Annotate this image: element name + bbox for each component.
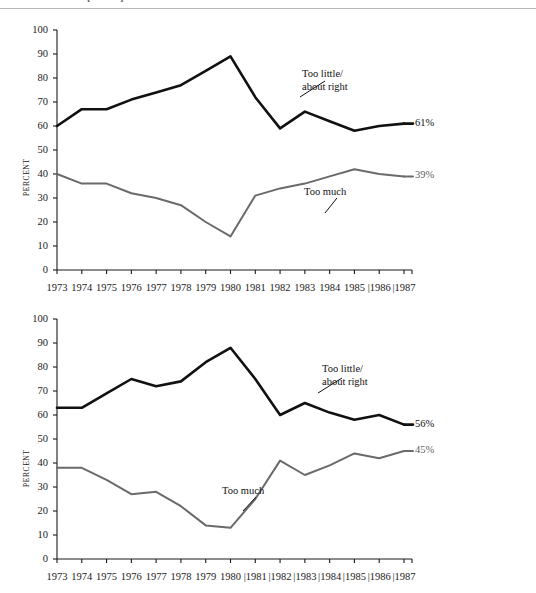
y-tick-label: 90 (8, 337, 48, 348)
y-tick-label: 50 (8, 433, 48, 444)
chart-panel-2: PERCENT 01020304050607080901001973197419… (0, 305, 536, 593)
y-tick-label: 100 (8, 24, 48, 35)
too-much-annotation: Too much (304, 186, 346, 199)
y-tick-label: 20 (8, 505, 48, 516)
chart-panel-1: PERCENT 01020304050607080901001973197419… (0, 18, 536, 300)
y-tick-label: 70 (8, 96, 48, 107)
y-tick-label: 60 (8, 409, 48, 420)
y-tick-label: 50 (8, 144, 48, 155)
end-label-too-much: 39% (415, 169, 434, 180)
running-head: Public Transit [cont'd] (0, 0, 536, 7)
y-tick-label: 90 (8, 48, 48, 59)
y-tick-label: 0 (8, 553, 48, 564)
too-little-annotation: Too little/about right (302, 68, 348, 93)
y-tick-label: 30 (8, 192, 48, 203)
y-tick-label: 70 (8, 385, 48, 396)
annotation-line-1: Too little/ (322, 363, 368, 376)
too-much-annotation: Too much (222, 485, 264, 498)
y-tick-label: 40 (8, 457, 48, 468)
header-rule (0, 8, 536, 9)
y-tick-label: 60 (8, 120, 48, 131)
end-label-too-much: 45% (415, 444, 434, 455)
figure-page: Public Transit [cont'd] PERCENT 01020304… (0, 0, 536, 593)
y-tick-label: 20 (8, 216, 48, 227)
end-label-too-little: 56% (415, 418, 434, 429)
running-head-text: Public Transit [cont'd] (18, 0, 124, 2)
too-little-annotation: Too little/about right (322, 363, 368, 388)
annotation-line-2: about right (322, 376, 368, 389)
y-tick-label: 30 (8, 481, 48, 492)
annotation-line-1: Too little/ (302, 68, 348, 81)
plot-area-1 (0, 18, 536, 300)
annotation-line-2: about right (302, 81, 348, 94)
y-tick-label: 0 (8, 264, 48, 275)
y-tick-label: 10 (8, 240, 48, 251)
y-tick-label: 40 (8, 168, 48, 179)
y-tick-label: 100 (8, 313, 48, 324)
y-tick-label: 80 (8, 361, 48, 372)
plot-area-2 (0, 305, 536, 593)
end-label-too-little: 61% (415, 117, 434, 128)
y-tick-label: 10 (8, 529, 48, 540)
x-tick-label: |1987 (387, 282, 421, 293)
y-tick-label: 80 (8, 72, 48, 83)
x-tick-label: |1987 (387, 571, 421, 582)
